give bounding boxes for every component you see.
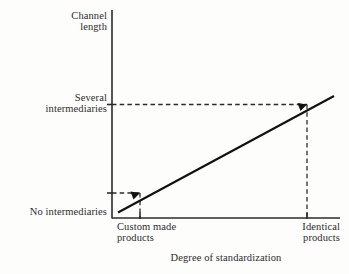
- y-axis-title: Channel length: [40, 10, 107, 32]
- y-tick-label-no-intermediaries: No intermediaries: [8, 206, 107, 217]
- x-tick-label-identical-products: Identical products: [258, 221, 340, 243]
- y-tick-label-several-intermediaries: Several intermediaries: [8, 92, 107, 114]
- trend-line: [118, 96, 334, 213]
- chart-figure: Channel length Several intermediaries No…: [0, 0, 349, 274]
- x-axis-title: Degree of standardization: [110, 252, 342, 263]
- x-tick-label-custom-made-products: Custom made products: [117, 221, 207, 243]
